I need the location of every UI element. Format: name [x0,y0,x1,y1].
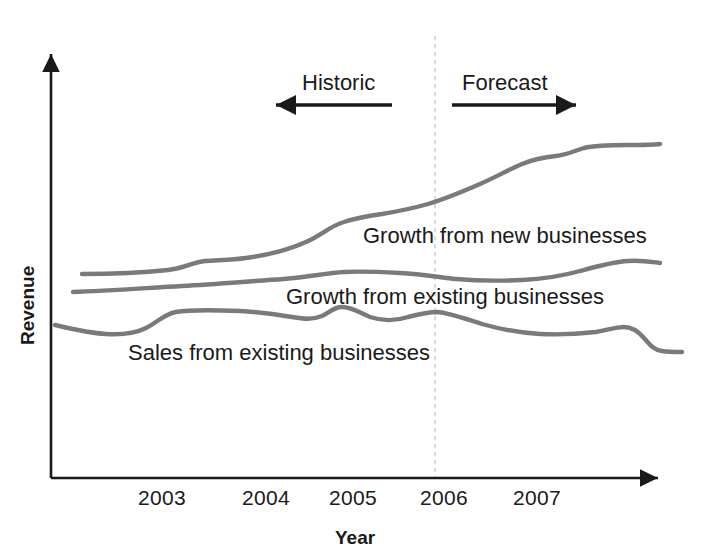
x-tick-label-2006: 2006 [420,487,468,508]
x-axis-title: Year [335,528,375,547]
series-label-growth-new-businesses: Growth from new businesses [363,225,647,247]
revenue-forecast-chart: Revenue Year 2003 2004 2005 2006 2007 Hi… [0,0,727,553]
series-line-growth-new-businesses [82,144,660,274]
x-tick-label-2004: 2004 [242,487,290,508]
x-tick-label-2005: 2005 [329,487,377,508]
x-tick-label-2003: 2003 [138,487,186,508]
annotation-forecast-label: Forecast [462,72,548,94]
y-axis-title: Revenue [18,266,37,345]
x-tick-label-2007: 2007 [513,487,561,508]
annotation-historic-label: Historic [302,72,375,94]
series-label-sales-existing-businesses: Sales from existing businesses [128,342,430,364]
series-label-growth-existing-businesses: Growth from existing businesses [286,286,604,308]
